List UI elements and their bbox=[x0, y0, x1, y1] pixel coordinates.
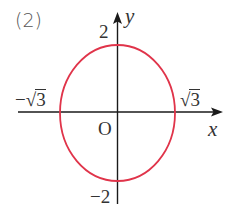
x-axis-label: x bbox=[208, 119, 217, 140]
radicand: 3 bbox=[35, 89, 46, 109]
origin-label: O bbox=[98, 119, 112, 138]
ellipse-diagram: (2) y x 2 −2 O −√3 √3 bbox=[0, 0, 229, 204]
x-tick-left-label: −√3 bbox=[15, 89, 46, 109]
minus-sign: − bbox=[15, 89, 26, 110]
y-tick-bottom-label: −2 bbox=[90, 187, 110, 204]
part-label: (2) bbox=[15, 11, 42, 30]
y-tick-top-label: 2 bbox=[99, 22, 109, 41]
sqrt-expression: √3 bbox=[180, 89, 200, 109]
x-tick-right-label: √3 bbox=[180, 89, 200, 109]
y-axis-label: y bbox=[125, 6, 134, 27]
sqrt-expression: √3 bbox=[26, 89, 46, 109]
radicand: 3 bbox=[189, 89, 200, 109]
